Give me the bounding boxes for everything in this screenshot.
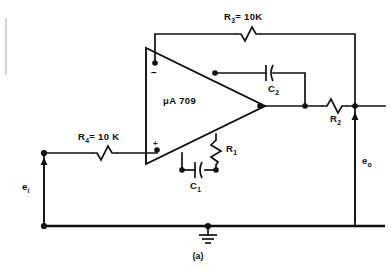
c1-left-node bbox=[179, 167, 185, 173]
r3-resistor-symbol bbox=[236, 27, 261, 41]
opamp-triangle bbox=[146, 48, 265, 164]
r1-c1-branch bbox=[179, 134, 221, 178]
c1-label: C1 bbox=[190, 180, 201, 193]
figure-caption: (a) bbox=[193, 251, 204, 261]
figure-canvas: − + μA 709 C2 bbox=[0, 0, 391, 269]
opamp-body bbox=[146, 48, 265, 164]
opamp-device-label: μA 709 bbox=[163, 95, 196, 106]
r1-resistor-symbol bbox=[211, 140, 221, 165]
r2-resistor-symbol bbox=[322, 99, 347, 113]
r4-label: R4= 10 K bbox=[78, 131, 119, 144]
ground-rail bbox=[41, 223, 385, 243]
r4-resistor-symbol bbox=[92, 146, 117, 160]
c2-label: C2 bbox=[268, 83, 279, 96]
inverting-sign: − bbox=[151, 67, 157, 78]
r2-label: R2 bbox=[330, 113, 341, 126]
noninverting-input-node bbox=[154, 147, 160, 153]
ei-label: ei bbox=[22, 181, 30, 194]
circuit-schematic: − + μA 709 C2 bbox=[0, 0, 391, 269]
r1-c1-junction-node bbox=[213, 167, 219, 173]
eo-label: eo bbox=[362, 155, 372, 168]
eo-arrow-head bbox=[352, 112, 359, 120]
noninverting-sign: + bbox=[153, 139, 158, 148]
r4-input-branch bbox=[41, 146, 157, 160]
c2-tap-node bbox=[212, 70, 218, 76]
inverting-input-node bbox=[152, 60, 158, 66]
ei-measurement bbox=[41, 153, 48, 226]
ei-arrow-head bbox=[41, 157, 48, 165]
r1-label: R1 bbox=[226, 143, 237, 156]
r3-label: R3= 10K bbox=[224, 11, 262, 24]
c1-plate-curved bbox=[200, 162, 202, 178]
output-branch bbox=[260, 99, 385, 113]
eo-measurement bbox=[352, 106, 359, 226]
